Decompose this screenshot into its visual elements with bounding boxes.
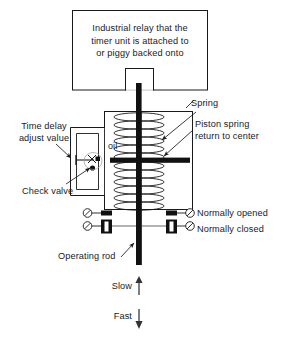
diagram-canvas: Industrial relay that the timer unit is …: [0, 0, 284, 339]
normally-opened-label: Normally opened: [197, 208, 268, 220]
nc-contact-left-gap: [105, 222, 109, 232]
no-contact-left-bar: [101, 211, 112, 216]
valve-port: [96, 157, 101, 162]
leader-check-valve: [66, 168, 90, 184]
time-delay-label: Time delay adjust value: [8, 120, 80, 144]
piston-spring-label-line2: return to center: [195, 130, 259, 142]
leader-spring: [162, 112, 196, 140]
no-contact-right-bar: [166, 211, 177, 216]
fast-arrow: [135, 309, 142, 329]
slow-arrow: [135, 276, 142, 295]
piston-spring-label-line1: Piston spring: [195, 118, 259, 130]
time-delay-label-line1: Time delay: [8, 120, 80, 132]
operating-rod-lower: [136, 209, 142, 265]
leader-operating-rod: [121, 243, 134, 257]
slow-label: Slow: [90, 281, 132, 293]
leader-piston-spring: [164, 130, 193, 156]
spring-label: Spring: [191, 98, 218, 110]
contact-block-right: [142, 209, 195, 234]
operating-rod-label: Operating rod: [58, 251, 115, 263]
relay-description-line1: Industrial relay that the: [74, 22, 206, 35]
normally-closed-label: Normally closed: [197, 224, 264, 236]
relay-description-line3: or piggy backed onto: [74, 47, 206, 60]
time-delay-label-line2: adjust value: [8, 132, 80, 144]
leader-time-delay: [56, 144, 71, 158]
relay-description: Industrial relay that the timer unit is …: [74, 22, 206, 60]
check-valve-label: Check valve: [22, 186, 73, 198]
contact-block-left: [83, 209, 136, 234]
fast-label: Fast: [90, 311, 132, 323]
oil-label: oil: [108, 141, 117, 153]
relay-description-line2: timer unit is attached to: [74, 35, 206, 48]
piston-plate: [110, 158, 190, 163]
nc-contact-right-gap: [170, 222, 174, 232]
piston-spring-label: Piston spring return to center: [195, 118, 259, 142]
